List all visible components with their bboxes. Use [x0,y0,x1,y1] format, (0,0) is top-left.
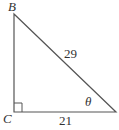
base-label: 21 [59,113,72,128]
hypotenuse-label: 29 [64,46,77,61]
right-triangle-diagram: B C 29 21 θ [0,0,119,130]
right-angle-marker [14,103,22,112]
vertex-label-b: B [8,0,16,14]
vertex-label-c: C [3,111,12,126]
triangle-shape [14,14,116,112]
angle-theta-label: θ [85,94,92,109]
